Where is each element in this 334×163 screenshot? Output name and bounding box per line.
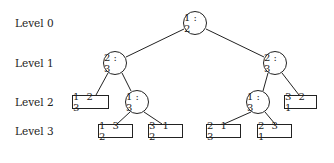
comparison-node: 1 : 3 bbox=[125, 90, 149, 114]
leaf-node: 3 1 2 bbox=[148, 124, 183, 138]
right-comparison-node: 2 : 3 bbox=[263, 51, 287, 75]
level-1-label: Level 1 bbox=[15, 57, 54, 69]
left-comparison-node: 2 : 3 bbox=[103, 51, 127, 75]
root-comparison-node: 1 : 2 bbox=[183, 11, 207, 35]
level-0-label: Level 0 bbox=[15, 17, 54, 29]
leaf-node: 1 3 2 bbox=[98, 124, 133, 138]
decision-tree-diagram: Level 0 Level 1 Level 2 Level 3 1 : 2 2 … bbox=[0, 0, 334, 163]
comparison-node: 1 : 3 bbox=[246, 90, 270, 114]
leaf-node: 2 3 1 bbox=[257, 124, 292, 138]
leaf-node: 1 2 3 bbox=[72, 95, 109, 109]
leaf-node: 2 1 3 bbox=[206, 124, 241, 138]
level-3-label: Level 3 bbox=[15, 125, 54, 137]
level-2-label: Level 2 bbox=[15, 96, 54, 108]
leaf-node: 3 2 1 bbox=[284, 95, 317, 109]
